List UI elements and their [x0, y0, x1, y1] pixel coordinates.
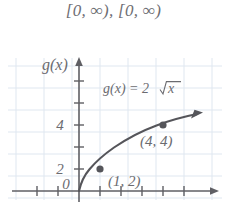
- curve-arrowhead: [191, 110, 203, 119]
- y-tick-label-2: 2: [56, 161, 64, 177]
- y-tick-label-4: 4: [56, 117, 64, 133]
- point-label-1-2: (1, 2): [108, 173, 141, 190]
- function-equation-lead: g(x) = 2: [103, 81, 149, 97]
- function-equation-radicand: x: [167, 81, 175, 96]
- answer-text: [0, ∞), [0, ∞): [66, 1, 162, 20]
- origin-label: 0: [62, 176, 70, 192]
- y-axis-label: g(x): [42, 56, 68, 74]
- data-point-1-2: [96, 165, 103, 172]
- domain-range-answer: [0, ∞), [0, ∞): [0, 1, 227, 21]
- function-equation-label: g(x) = 2 x: [103, 81, 181, 97]
- graph-figure: g(x) 2 4 0 (1, 2) (4, 4) g(x) = 2 x: [0, 50, 227, 215]
- data-point-4-4: [159, 121, 166, 128]
- point-label-4-4: (4, 4): [140, 133, 173, 150]
